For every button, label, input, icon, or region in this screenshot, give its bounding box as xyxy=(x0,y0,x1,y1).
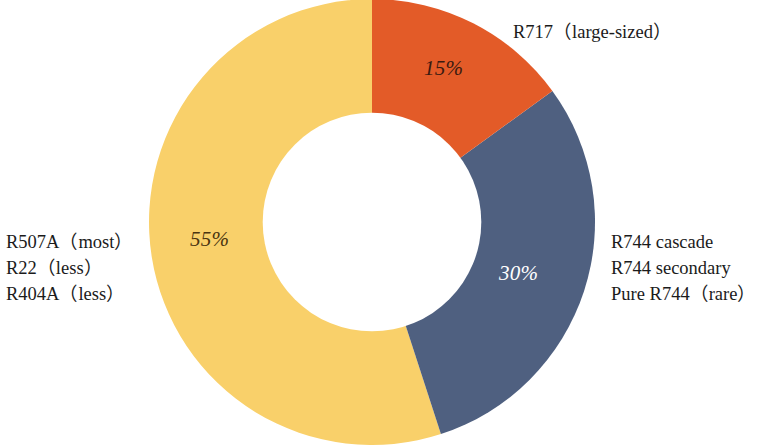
callout-line: R404A（less） xyxy=(6,281,133,307)
callout-line: R744 cascade xyxy=(611,229,756,255)
donut-hole xyxy=(263,113,482,332)
callout-label-r717: R717（large-sized） xyxy=(513,19,672,45)
callout-line: Pure R744（rare） xyxy=(611,281,756,307)
slice-value-r507a: 55% xyxy=(190,227,229,252)
callout-line: R744 secondary xyxy=(611,255,756,281)
callout-line: R717（large-sized） xyxy=(513,19,672,45)
slice-value-r717: 15% xyxy=(424,56,463,81)
donut-chart-graphic xyxy=(148,0,596,445)
slice-value-r744: 30% xyxy=(499,261,538,286)
donut-chart-figure: 15% 30% 55% R717（large-sized） R744 casca… xyxy=(0,0,768,445)
callout-label-r744: R744 cascade R744 secondary Pure R744（ra… xyxy=(611,229,756,307)
callout-label-r507a: R507A（most） R22（less） R404A（less） xyxy=(6,229,133,307)
callout-line: R507A（most） xyxy=(6,229,133,255)
callout-line: R22（less） xyxy=(6,255,133,281)
